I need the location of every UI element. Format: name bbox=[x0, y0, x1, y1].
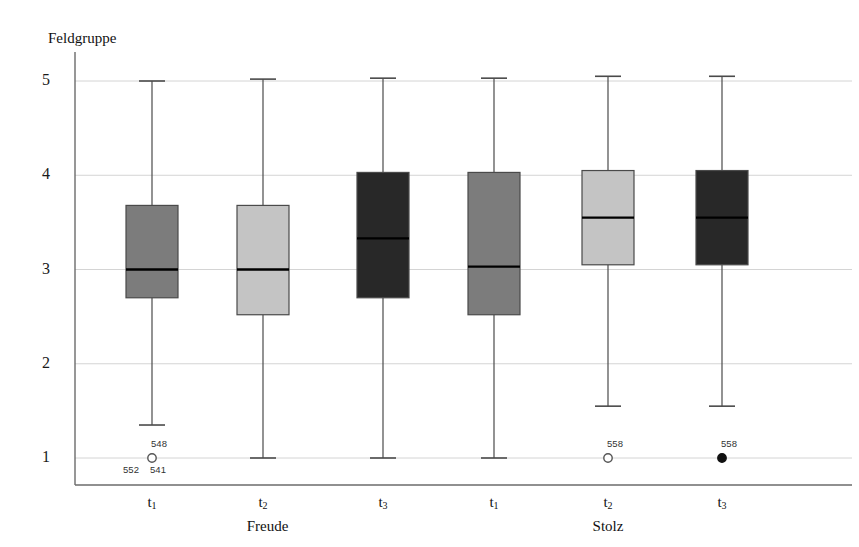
box-rect bbox=[237, 205, 289, 314]
x-tick-subscript: 3 bbox=[383, 500, 388, 511]
gridlines bbox=[75, 81, 852, 458]
x-tick-base: t bbox=[258, 494, 262, 510]
outlier-label-below: 541 bbox=[138, 464, 178, 475]
group-label-stolz: Stolz bbox=[538, 518, 678, 535]
box-plot-stolz-t1 bbox=[468, 78, 520, 458]
box-plot-freude-t3 bbox=[357, 78, 409, 458]
axes bbox=[75, 52, 852, 485]
x-tick-label-freude-t2: t2 bbox=[233, 494, 293, 511]
y-tick-label-3: 3 bbox=[24, 260, 50, 278]
outlier-label-above: 558 bbox=[595, 438, 635, 449]
outlier-marker bbox=[604, 454, 612, 462]
outlier-label-above: 558 bbox=[709, 438, 749, 449]
box-plot-freude-t2 bbox=[237, 79, 289, 458]
boxplot-chart: Feldgruppe 54321t1t2t3t1t2t3FreudeStolz5… bbox=[0, 0, 859, 547]
y-tick-label-1: 1 bbox=[24, 448, 50, 466]
box-plot-freude-t1 bbox=[126, 81, 178, 462]
x-tick-label-freude-t3: t3 bbox=[353, 494, 413, 511]
x-tick-label-freude-t1: t1 bbox=[122, 494, 182, 511]
box-rect bbox=[357, 172, 409, 297]
x-tick-subscript: 2 bbox=[263, 500, 268, 511]
box-rect bbox=[468, 172, 520, 314]
x-tick-base: t bbox=[147, 494, 151, 510]
x-tick-subscript: 2 bbox=[608, 500, 613, 511]
y-tick-label-2: 2 bbox=[24, 354, 50, 372]
outlier-marker bbox=[718, 454, 726, 462]
x-tick-label-stolz-t1: t1 bbox=[464, 494, 524, 511]
y-tick-label-5: 5 bbox=[24, 71, 50, 89]
box-rect bbox=[126, 205, 178, 297]
x-tick-subscript: 1 bbox=[494, 500, 499, 511]
outlier-marker bbox=[148, 454, 156, 462]
x-tick-base: t bbox=[717, 494, 721, 510]
x-tick-base: t bbox=[603, 494, 607, 510]
x-tick-label-stolz-t3: t3 bbox=[692, 494, 752, 511]
outlier-label-above: 548 bbox=[139, 438, 179, 449]
group-label-freude: Freude bbox=[198, 518, 338, 535]
x-tick-base: t bbox=[489, 494, 493, 510]
x-tick-subscript: 3 bbox=[722, 500, 727, 511]
x-tick-base: t bbox=[378, 494, 382, 510]
x-tick-label-stolz-t2: t2 bbox=[578, 494, 638, 511]
y-tick-label-4: 4 bbox=[24, 165, 50, 183]
x-tick-subscript: 1 bbox=[152, 500, 157, 511]
